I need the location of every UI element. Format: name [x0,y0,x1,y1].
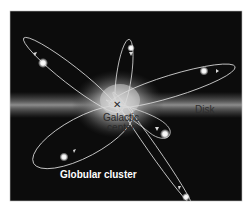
cluster-lower-left [60,153,69,162]
cluster-upper-middle [127,44,135,52]
disk-label: Disk [195,105,214,115]
galaxy-diagram: ✕ Galactic center Disk Globular cluster [0,0,247,209]
galactic-center-mark: ✕ [113,100,121,110]
globular-cluster-label: Globular cluster [60,170,137,180]
cluster-bottom-right [182,193,190,201]
galactic-center-label-line2: center [107,123,135,133]
cluster-upper-left [38,58,48,68]
cluster-upper-right [200,67,209,76]
cluster-right-middle [160,129,170,139]
